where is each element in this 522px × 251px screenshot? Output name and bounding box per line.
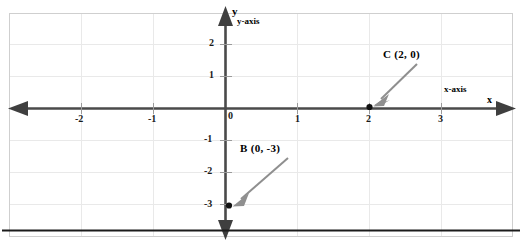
y-tick-label-neg3: -3 (204, 199, 212, 209)
x-tick-label-1: 1 (295, 114, 300, 124)
x-tick-label-2: 2 (366, 114, 371, 124)
x-axis-letter: x (487, 95, 492, 105)
point-label-c: C (2, 0) (383, 49, 420, 60)
x-tick-label-neg1: -1 (148, 114, 156, 124)
data-point-c[interactable] (366, 104, 372, 110)
graph-canvas: y y-axis x-axis x 0 -2 -1 1 2 3 2 1 -1 -… (0, 0, 522, 251)
y-tick-label-1: 1 (209, 70, 214, 80)
x-tick-label-neg2: -2 (75, 114, 83, 124)
x-axis-name-label: x-axis (444, 85, 467, 94)
coordinate-plane-svg (0, 0, 522, 251)
y-tick-label-neg1: -1 (204, 134, 212, 144)
origin-label: 0 (228, 111, 233, 121)
x-tick-label-3: 3 (438, 114, 443, 124)
data-point-b[interactable] (226, 202, 232, 208)
y-axis-name-label: y-axis (237, 17, 260, 26)
plot-background (0, 0, 522, 251)
point-label-b: B (0, -3) (240, 143, 280, 154)
y-tick-label-2: 2 (209, 38, 214, 48)
y-tick-label-neg2: -2 (204, 166, 212, 176)
